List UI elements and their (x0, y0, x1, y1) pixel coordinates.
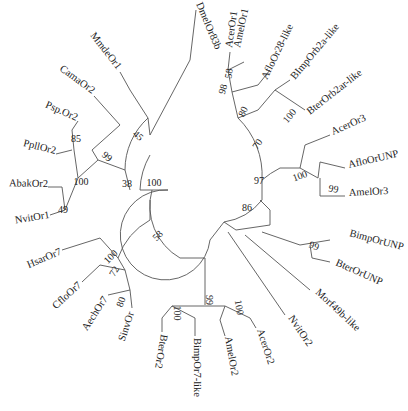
taxon-label: AbakOr2 (9, 177, 48, 189)
bootstrap-value: 99 (204, 295, 215, 305)
taxon-label: AechOr7 (79, 294, 109, 332)
taxon-label: SinvOr (116, 310, 136, 343)
taxon-label: NvitOr1 (14, 209, 50, 225)
taxon-label: CamaOr2 (58, 63, 97, 96)
bootstrap-value: 98 (216, 83, 229, 96)
taxon-label: MmdeOr1 (88, 30, 124, 71)
taxon-label: NvitOr2 (286, 313, 315, 348)
taxon-label: AcerOr2 (255, 327, 277, 365)
bootstrap-value: 100 (101, 247, 119, 265)
taxon-label: BimpOr7-like (192, 338, 203, 397)
taxon-label: CfloOr7 (50, 279, 83, 311)
bootstrap-value: 100 (280, 106, 298, 125)
taxon-label: Morf49b-like (314, 286, 363, 333)
taxon-label: AcerOr3 (329, 112, 367, 137)
taxon-labels: DmelOr83bAcerOr1AmelOr1AfloOr28-likeBImp… (9, 0, 405, 397)
bootstrap-value: 58 (222, 68, 235, 80)
taxon-label: AmelOr2 (223, 335, 241, 376)
bootstrap-value: 70 (250, 137, 265, 152)
taxon-label: HsarOr7 (25, 246, 63, 270)
taxon-label: BterOrUNP (334, 257, 384, 288)
taxon-label: PpllOr2 (22, 137, 57, 156)
bootstrap-value: 72 (107, 264, 122, 278)
taxon-label: BimpOrUNP (348, 227, 405, 252)
bootstrap-value: 38 (122, 178, 132, 189)
bootstrap-value: 85 (71, 133, 81, 144)
bootstrap-value: 99 (308, 239, 321, 253)
taxon-label: AmelOr3 (349, 185, 389, 198)
bootstrap-value: 49 (58, 204, 68, 215)
bootstrap-value: 100 (233, 299, 246, 316)
bootstrap-value: 99 (328, 182, 340, 195)
taxon-label: BImpOrb2a-like (288, 21, 341, 81)
bootstrap-value: 100 (291, 168, 309, 183)
bootstrap-value: 100 (147, 177, 162, 188)
taxon-label: BterOr2 (153, 334, 170, 370)
bootstrap-value: 45 (131, 128, 146, 143)
bootstrap-values: 5898801007010099978699100583845991008549… (58, 68, 339, 321)
taxon-label: BterOrb2ar-like (304, 67, 364, 117)
bootstrap-value: 86 (242, 202, 252, 213)
bootstrap-value: 100 (172, 306, 183, 321)
bootstrap-value: 100 (74, 176, 89, 187)
taxon-label: AfloOrUNP (347, 148, 400, 170)
bootstrap-value: 58 (150, 228, 165, 243)
bootstrap-value: 80 (114, 295, 128, 308)
taxon-label: Psp.Or2 (44, 99, 80, 123)
phylogenetic-tree: DmelOr83bAcerOr1AmelOr1AfloOr28-likeBImp… (0, 0, 408, 411)
bootstrap-value: 97 (254, 175, 264, 186)
taxon-label: DmelOr83b (194, 0, 224, 50)
